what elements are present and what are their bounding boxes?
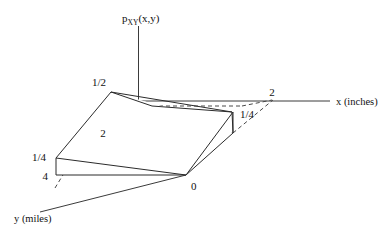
label-y-extent: 4 bbox=[43, 170, 49, 182]
figure-container: 1/2 2 1/4 4 1/4 2 0 pXY(x,y) x (inches) … bbox=[0, 0, 388, 234]
label-x-extent: 2 bbox=[269, 86, 275, 98]
label-left-front-height: 1/4 bbox=[32, 151, 47, 163]
vertical-axis-label-args: (x,y) bbox=[138, 12, 159, 25]
x-axis-label: x (inches) bbox=[336, 96, 378, 108]
vertical-axis-label: pXY(x,y) bbox=[97, 12, 178, 27]
y-axis-label: y (miles) bbox=[14, 213, 52, 225]
face-front-left bbox=[56, 92, 186, 175]
solid-faces-group bbox=[56, 92, 233, 175]
vertical-axis-label-subscript: XY bbox=[128, 18, 139, 27]
label-right-height: 1/4 bbox=[240, 108, 255, 120]
label-peak-height: 1/2 bbox=[92, 76, 106, 88]
y-axis-line bbox=[40, 175, 186, 212]
figure-svg: 1/2 2 1/4 4 1/4 2 0 pXY(x,y) x (inches) … bbox=[0, 0, 388, 234]
label-depth-tick: 2 bbox=[100, 127, 106, 139]
label-origin: 0 bbox=[191, 180, 197, 192]
